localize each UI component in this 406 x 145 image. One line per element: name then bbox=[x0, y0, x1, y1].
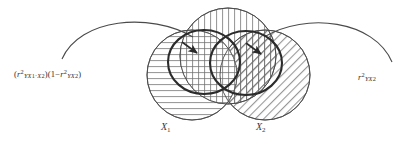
right-formula-sub-yx: YX bbox=[365, 75, 373, 82]
right-formula-sub-index: 2 bbox=[373, 75, 376, 82]
left-formula-second-sub-yx: YX bbox=[67, 72, 75, 79]
hatched-circles-group bbox=[147, 8, 310, 120]
left-formula-sub-yx: YX bbox=[24, 72, 32, 79]
left-formula-second-close: ) bbox=[78, 69, 81, 79]
left-formula-second-open: (1− bbox=[48, 69, 60, 79]
right-formula-annotation: r2YX2 bbox=[358, 72, 376, 82]
set-label-x1: X1 bbox=[161, 122, 171, 134]
set-label-x1-index: 1 bbox=[167, 126, 171, 134]
set-label-x2: X2 bbox=[256, 122, 266, 134]
set-label-x2-index: 2 bbox=[262, 126, 266, 134]
left-formula-annotation: (r2YX1·X2)(1−r2YX2) bbox=[14, 69, 81, 79]
